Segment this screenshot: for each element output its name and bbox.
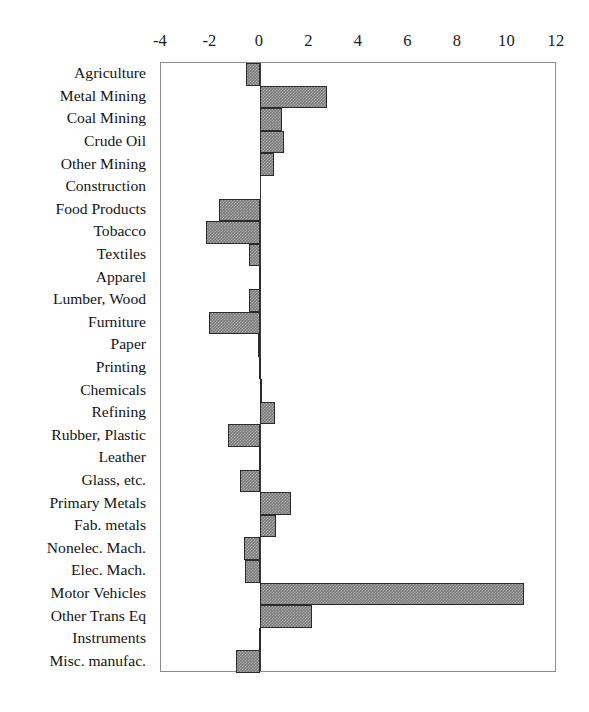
x-tick-label: 2: [304, 31, 312, 51]
category-label: Food Products: [55, 200, 146, 218]
bar: [260, 605, 312, 628]
bar: [244, 537, 260, 560]
bar: [249, 244, 260, 267]
category-label: Coal Mining: [67, 109, 146, 127]
category-label: Motor Vehicles: [51, 584, 146, 602]
bar: [259, 447, 261, 470]
x-tick-label: 10: [498, 31, 515, 51]
bar: [259, 357, 261, 380]
bar: [260, 131, 284, 154]
bar: [260, 492, 291, 515]
bar: [240, 470, 260, 493]
category-label: Furniture: [88, 313, 146, 331]
category-label: Other Trans Eq: [51, 607, 146, 625]
bar: [260, 515, 276, 538]
x-tick-label: 4: [354, 31, 362, 51]
category-label: Glass, etc.: [81, 471, 146, 489]
category-label: Primary Metals: [49, 494, 146, 512]
category-label: Construction: [65, 177, 146, 195]
category-label: Textiles: [97, 245, 146, 263]
bar: [260, 402, 275, 425]
category-label: Crude Oil: [84, 132, 146, 150]
bar: [236, 650, 260, 673]
category-label: Paper: [110, 335, 146, 353]
category-label: Other Mining: [61, 155, 146, 173]
category-label: Refining: [91, 403, 146, 421]
category-label: Instruments: [72, 629, 146, 647]
category-label: Elec. Mach.: [71, 561, 146, 579]
x-tick-label: 6: [403, 31, 411, 51]
bar: [259, 266, 261, 289]
plot-frame: [160, 62, 556, 672]
category-label: Misc. manufac.: [49, 652, 146, 670]
category-label: Lumber, Wood: [53, 290, 146, 308]
category-label: Chemicals: [80, 381, 146, 399]
bar: [258, 334, 260, 357]
category-label: Tobacco: [93, 222, 146, 240]
category-label: Metal Mining: [60, 87, 146, 105]
category-label-column: AgricultureMetal MiningCoal MiningCrude …: [0, 62, 155, 672]
bar: [259, 628, 261, 651]
x-tick-label: 0: [255, 31, 263, 51]
x-tick-label: 8: [453, 31, 461, 51]
bar: [260, 153, 274, 176]
bar: [228, 424, 260, 447]
category-label: Agriculture: [74, 64, 146, 82]
bar: [260, 86, 327, 109]
category-label: Apparel: [96, 268, 146, 286]
x-axis-tick-label-row: -4-2024681012: [0, 31, 589, 55]
category-label: Leather: [98, 448, 146, 466]
horizontal-bar-chart: -4-2024681012 AgricultureMetal MiningCoa…: [0, 0, 589, 712]
bar: [260, 583, 524, 606]
bar: [219, 199, 260, 222]
category-label: Printing: [96, 358, 146, 376]
bar: [260, 379, 262, 402]
category-label: Fab. metals: [74, 516, 146, 534]
plot-area: [161, 63, 555, 671]
bar: [245, 560, 260, 583]
bar: [249, 289, 260, 312]
bar: [209, 312, 260, 335]
bar: [260, 108, 282, 131]
category-label: Rubber, Plastic: [51, 426, 146, 444]
category-label: Nonelec. Mach.: [47, 539, 146, 557]
x-tick-label: -4: [153, 31, 167, 51]
bar: [246, 63, 260, 86]
x-tick-label: -2: [202, 31, 216, 51]
bar: [206, 221, 260, 244]
x-tick-label: 12: [548, 31, 565, 51]
